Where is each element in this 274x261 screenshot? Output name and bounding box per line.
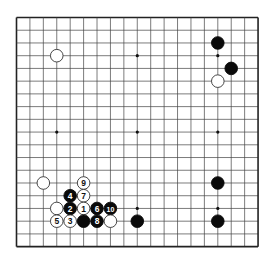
- move-number-label: 5: [54, 216, 59, 226]
- white-stone: 5: [50, 215, 63, 228]
- move-number-label: 6: [95, 204, 100, 214]
- star-point-icon: [216, 207, 219, 210]
- black-stone-icon: [212, 37, 225, 50]
- star-point-icon: [55, 130, 58, 133]
- black-stone: [212, 177, 225, 190]
- go-board-grid[interactable]: 94721610538: [0, 0, 274, 261]
- white-stone-icon: [104, 215, 117, 228]
- move-number-label: 9: [81, 178, 86, 188]
- white-stone: [212, 75, 225, 88]
- move-number-label: 7: [81, 191, 86, 201]
- black-stone: 8: [91, 215, 104, 228]
- move-number-label: 8: [95, 216, 100, 226]
- star-point-icon: [136, 54, 139, 57]
- white-stone-icon: [37, 177, 50, 190]
- white-stone: 3: [64, 215, 77, 228]
- white-stone: 1: [77, 202, 90, 215]
- white-stone: [104, 215, 117, 228]
- black-stone: [212, 215, 225, 228]
- black-stone-icon: [225, 62, 238, 75]
- white-stone: 7: [77, 189, 90, 202]
- white-stone: 9: [77, 177, 90, 190]
- black-stone-icon: [212, 215, 225, 228]
- move-number-label: 2: [68, 204, 73, 214]
- black-stone-icon: [131, 215, 144, 228]
- white-stone: [37, 177, 50, 190]
- white-stone: [50, 202, 63, 215]
- black-stone: 6: [91, 202, 104, 215]
- go-board[interactable]: 94721610538: [0, 0, 274, 261]
- black-stone-icon: [77, 215, 90, 228]
- black-stone: 10: [104, 202, 117, 215]
- black-stone: 2: [64, 202, 77, 215]
- move-number-label: 3: [68, 216, 73, 226]
- white-stone: [50, 49, 63, 62]
- white-stone-icon: [50, 202, 63, 215]
- move-number-label: 4: [68, 191, 73, 201]
- black-stone: [225, 62, 238, 75]
- move-number-label: 1: [81, 204, 86, 214]
- black-stone: [77, 215, 90, 228]
- black-stone-icon: [212, 177, 225, 190]
- black-stone: [212, 37, 225, 50]
- black-stone: [131, 215, 144, 228]
- star-point-icon: [216, 130, 219, 133]
- white-stone-icon: [50, 49, 63, 62]
- white-stone-icon: [212, 75, 225, 88]
- star-point-icon: [136, 130, 139, 133]
- star-point-icon: [216, 54, 219, 57]
- star-point-icon: [136, 207, 139, 210]
- black-stone: 4: [64, 189, 77, 202]
- move-number-label: 10: [107, 206, 115, 213]
